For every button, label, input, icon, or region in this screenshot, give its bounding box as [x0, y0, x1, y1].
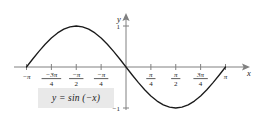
x-tick-label-denominator: 4 — [50, 80, 54, 88]
x-tick-label-numerator: −π — [72, 71, 81, 79]
x-tick-label-numerator: −π — [97, 71, 106, 79]
x-axis-label: x — [246, 68, 251, 78]
x-tick-label-numerator: 3π — [196, 71, 205, 79]
y-tick-label: 1 — [117, 23, 121, 31]
x-tick-label-denominator: 2 — [174, 80, 178, 88]
x-tick-label: −π — [22, 73, 31, 81]
x-tick-label-denominator: 4 — [149, 80, 153, 88]
x-tick-label-denominator: 2 — [74, 80, 78, 88]
y-axis-label: y — [116, 14, 121, 24]
x-tick-label-numerator: π — [174, 71, 178, 79]
equation-label-box: y = sin (−x) — [38, 88, 114, 108]
x-axis-tick-labels: −π−3π4−π2−π4π4π23π4π — [22, 71, 227, 88]
x-tick-label-denominator: 4 — [199, 80, 203, 88]
x-tick-label: π — [224, 73, 228, 81]
equation-label-text: y = sin (−x) — [52, 93, 100, 103]
x-tick-label-numerator: −3π — [46, 71, 58, 79]
x-tick-label-denominator: 4 — [99, 80, 103, 88]
chart-figure: −π−3π4−π2−π4π4π23π4π 1−1 y x y = sin (−x… — [0, 0, 259, 122]
x-tick-label-numerator: π — [149, 71, 153, 79]
